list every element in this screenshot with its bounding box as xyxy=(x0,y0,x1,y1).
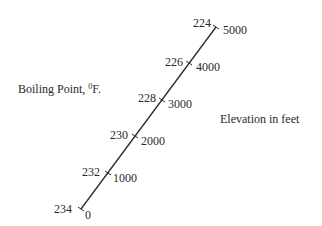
elevation-label: 1000 xyxy=(113,172,137,184)
scale-line xyxy=(81,27,216,209)
boiling-label: 226 xyxy=(165,56,183,68)
elevation-label: 5000 xyxy=(223,24,247,36)
boiling-label: 230 xyxy=(110,129,128,141)
elevation-label: 2000 xyxy=(141,135,165,147)
boiling-label: 228 xyxy=(138,92,156,104)
boiling-label: 224 xyxy=(193,17,211,29)
boiling-label: 234 xyxy=(54,203,72,215)
elevation-label: 4000 xyxy=(196,61,220,73)
boiling-point-axis-title: Boiling Point, 0F. xyxy=(18,80,101,96)
boiling-label: 232 xyxy=(82,166,100,178)
elevation-label: 3000 xyxy=(168,98,192,110)
elevation-label: 0 xyxy=(85,209,91,221)
elevation-axis-title: Elevation in feet xyxy=(220,112,299,126)
